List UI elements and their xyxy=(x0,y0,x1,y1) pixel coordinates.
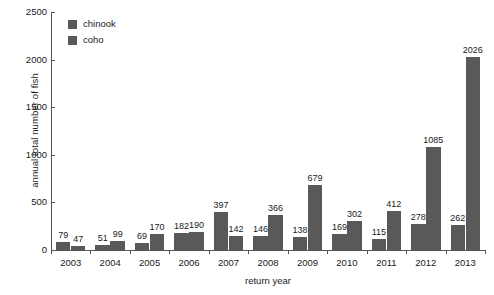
bar-value-label: 182 xyxy=(174,222,189,231)
x-axis-tick xyxy=(367,250,368,254)
x-axis-tick xyxy=(130,250,131,254)
y-axis-line xyxy=(51,12,52,250)
x-axis-tick xyxy=(169,250,170,254)
y-axis-tick-label: 1500 xyxy=(3,102,47,112)
y-axis-tick-label: 0 xyxy=(3,245,47,255)
bar-chinook-2011 xyxy=(372,239,387,250)
bar-coho-2010 xyxy=(347,221,362,250)
x-axis-title: return year xyxy=(51,275,485,286)
x-axis-tick-label: 2007 xyxy=(218,257,239,268)
bar-coho-2006 xyxy=(189,232,204,250)
bar-chinook-2009 xyxy=(293,237,308,250)
bar-value-label: 170 xyxy=(150,223,165,232)
bar-value-label: 2026 xyxy=(463,46,483,55)
bar-chinook-2013 xyxy=(451,225,466,250)
y-axis-tick xyxy=(51,202,55,203)
bar-value-label: 69 xyxy=(137,232,147,241)
x-axis-line xyxy=(51,250,485,251)
bar-value-label: 51 xyxy=(98,234,108,243)
bar-chinook-2008 xyxy=(253,236,268,250)
x-axis-tick-label: 2004 xyxy=(100,257,121,268)
legend-item-coho: coho xyxy=(68,32,116,48)
bar-chart: annual total number of fish 050010001500… xyxy=(0,0,494,295)
bar-value-label: 115 xyxy=(372,228,386,237)
legend-label: chinook xyxy=(83,19,116,29)
y-axis-tick xyxy=(51,155,55,156)
x-axis-tick-label: 2003 xyxy=(60,257,81,268)
bar-value-label: 278 xyxy=(411,213,426,222)
bar-value-label: 79 xyxy=(58,231,68,240)
x-axis-tick xyxy=(288,250,289,254)
bar-value-label: 397 xyxy=(214,201,229,210)
bar-value-label: 679 xyxy=(307,174,322,183)
legend-label: coho xyxy=(83,35,104,45)
bar-value-label: 146 xyxy=(253,225,268,234)
bar-coho-2012 xyxy=(426,147,441,250)
x-axis-tick xyxy=(446,250,447,254)
x-axis-tick-label: 2005 xyxy=(139,257,160,268)
bar-value-label: 47 xyxy=(73,235,83,244)
x-axis-tick xyxy=(327,250,328,254)
legend-item-chinook: chinook xyxy=(68,16,116,32)
bar-value-label: 142 xyxy=(229,225,244,234)
y-axis-tick xyxy=(51,60,55,61)
y-axis-tick-label: 2500 xyxy=(3,7,47,17)
chart-legend: chinookcoho xyxy=(68,16,116,48)
bar-value-label: 99 xyxy=(113,230,123,239)
bar-coho-2004 xyxy=(110,241,125,250)
bar-coho-2011 xyxy=(387,211,402,250)
bar-chinook-2006 xyxy=(174,233,189,250)
y-axis-tick xyxy=(51,107,55,108)
y-axis-tick-label: 500 xyxy=(3,198,47,208)
bar-chinook-2012 xyxy=(411,224,426,250)
bar-value-label: 1085 xyxy=(423,136,443,145)
legend-swatch-icon xyxy=(68,20,77,29)
bar-value-label: 262 xyxy=(450,214,465,223)
x-axis-tick-label: 2012 xyxy=(415,257,436,268)
x-axis-tick-label: 2006 xyxy=(179,257,200,268)
x-axis-tick-label: 2009 xyxy=(297,257,318,268)
x-axis-tick xyxy=(248,250,249,254)
bar-coho-2007 xyxy=(229,236,244,250)
bar-coho-2005 xyxy=(150,234,165,250)
x-axis-tick xyxy=(485,250,486,254)
bar-coho-2008 xyxy=(268,215,283,250)
bar-value-label: 138 xyxy=(292,226,307,235)
bar-value-label: 302 xyxy=(347,210,362,219)
legend-swatch-icon xyxy=(68,36,77,45)
x-axis-tick-label: 2013 xyxy=(455,257,476,268)
bar-value-label: 412 xyxy=(386,200,401,209)
x-axis-tick xyxy=(90,250,91,254)
x-axis-tick-label: 2008 xyxy=(257,257,278,268)
x-axis-tick-label: 2011 xyxy=(376,257,396,268)
y-axis-tick-label: 2000 xyxy=(3,55,47,65)
bar-coho-2013 xyxy=(466,57,481,250)
bar-chinook-2010 xyxy=(332,234,347,250)
bar-value-label: 190 xyxy=(189,221,204,230)
x-axis-tick-label: 2010 xyxy=(336,257,357,268)
x-axis-tick xyxy=(51,250,52,254)
bar-coho-2009 xyxy=(308,185,323,250)
bar-chinook-2007 xyxy=(214,212,229,250)
bar-value-label: 169 xyxy=(332,223,347,232)
x-axis-tick xyxy=(406,250,407,254)
y-axis-tick xyxy=(51,12,55,13)
bar-value-label: 366 xyxy=(268,204,283,213)
y-axis-tick-label: 1000 xyxy=(3,150,47,160)
x-axis-tick xyxy=(209,250,210,254)
bar-chinook-2003 xyxy=(56,242,71,250)
